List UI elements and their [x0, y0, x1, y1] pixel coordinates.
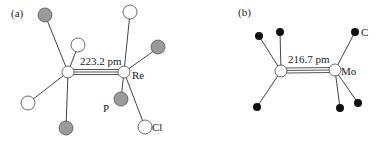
carbon-atom [255, 32, 263, 40]
panel-b-metal-metal-bond [286, 68, 330, 74]
white-atom [21, 96, 35, 110]
metal-atom-left [62, 66, 74, 78]
metal-atom-right [329, 64, 341, 76]
carbon-atom [351, 28, 359, 36]
gray-atom [151, 40, 165, 54]
metal-label: Mo [341, 65, 357, 77]
bond-length-label: 223.2 pm [80, 55, 122, 67]
panel-a-metal-metal-bond [72, 70, 120, 75]
gray-atom [59, 121, 73, 135]
carbon-atom [253, 103, 261, 111]
metal-label: Re [132, 69, 144, 81]
carbon-atom [336, 104, 344, 112]
carbon-label: C [361, 26, 368, 38]
carbon-atom [354, 99, 362, 107]
panel-a: (a) 223.2 pm Re [11, 5, 165, 135]
chlorine-label: Cl [152, 121, 162, 133]
phosphorus-label: P [103, 102, 109, 114]
metal-atom-right [118, 66, 130, 78]
metal-atom-left [275, 65, 287, 77]
molecular-structure-figure: (a) 223.2 pm Re [0, 0, 380, 141]
white-atom [71, 38, 85, 52]
carbon-atom [276, 28, 284, 36]
gray-atom [38, 8, 52, 22]
phosphorus-atom [114, 92, 128, 106]
panel-b-label: (b) [238, 6, 251, 19]
panel-b: (b) 216.7 pm Mo C [238, 6, 368, 112]
bond-length-label: 216.7 pm [288, 53, 330, 65]
chlorine-atom [138, 120, 152, 134]
white-atom [123, 5, 137, 19]
panel-a-label: (a) [11, 7, 24, 20]
